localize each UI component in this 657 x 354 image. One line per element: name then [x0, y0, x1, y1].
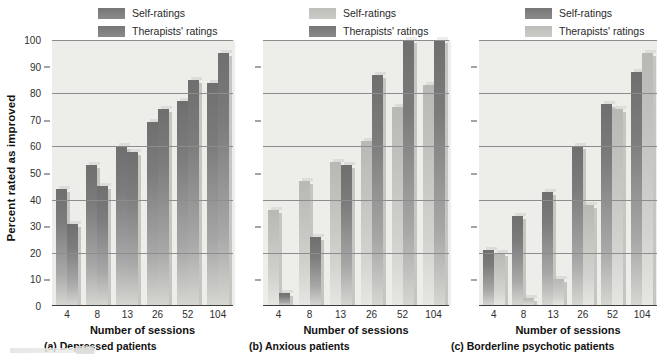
bar-top-shadow — [302, 178, 313, 181]
bar — [361, 141, 372, 306]
bar — [423, 85, 434, 306]
y-tick-label: 70 — [457, 114, 477, 125]
y-tick-mark — [44, 120, 50, 121]
plot-wrap-b: 1009080706050403020100 — [233, 40, 449, 306]
bar-side-shadow — [594, 208, 597, 306]
gridline — [263, 93, 449, 94]
y-tick-mark — [471, 67, 477, 68]
bar-group — [512, 40, 534, 306]
x-tick-label: 104 — [628, 309, 656, 320]
bar — [392, 107, 403, 307]
legend-swatch-dark — [98, 8, 125, 19]
x-tick-label: 8 — [296, 309, 324, 320]
bar-top-shadow — [615, 106, 626, 109]
y-tick-label: 10 — [30, 274, 50, 285]
bar-face — [361, 141, 372, 306]
bar — [631, 72, 642, 306]
plot-wrap-c: 1009080706050403020100 — [449, 40, 657, 306]
y-tick-label: 20 — [241, 247, 261, 258]
x-tick-label: 8 — [83, 309, 111, 320]
legend-item: Self-ratings — [98, 6, 185, 20]
legend-label: Self-ratings — [343, 8, 396, 19]
y-tick-value: 70 — [30, 114, 41, 125]
gridline — [479, 253, 657, 254]
bar — [483, 250, 494, 306]
legend-item: Self-ratings — [525, 6, 612, 20]
bar-group — [299, 40, 321, 306]
y-tick-mark — [44, 173, 50, 174]
legend-item: Therapists' ratings — [98, 24, 217, 38]
bar-top-shadow — [221, 50, 232, 53]
bar-group — [483, 40, 505, 306]
y-axis-label-column: Percent rated as improved — [0, 0, 22, 354]
y-axis-ticks-b: 1009080706050403020100 — [233, 40, 263, 306]
legend-panel-a: Self-ratingsTherapists' ratings — [22, 0, 233, 40]
figure-root: Percent rated as improved Self-ratingsTh… — [0, 0, 657, 354]
y-tick-label: 50 — [457, 168, 477, 179]
legend-label: Self-ratings — [559, 8, 612, 19]
y-tick-label: 0 — [35, 301, 50, 312]
bar-face — [97, 186, 108, 306]
x-axis-c: 48132652104 — [449, 306, 657, 323]
bar-top-shadow — [191, 77, 202, 80]
y-tick-label: 0 — [246, 301, 261, 312]
y-tick-mark — [255, 280, 261, 281]
y-tick-value: 20 — [30, 247, 41, 258]
bar-face — [483, 250, 494, 306]
x-tick-label: 52 — [174, 309, 202, 320]
bar-group — [268, 40, 290, 306]
y-tick-label: 30 — [241, 221, 261, 232]
legend-swatch-dark — [98, 26, 125, 37]
gridline — [263, 40, 449, 41]
x-axis-title-b: Number of sessions — [233, 323, 449, 338]
bar-side-shadow — [383, 78, 386, 306]
y-tick-label: 30 — [457, 221, 477, 232]
y-tick-value: 60 — [30, 141, 41, 152]
bar-top-shadow — [645, 50, 656, 53]
y-tick-mark — [471, 173, 477, 174]
legend-label: Therapists' ratings — [559, 26, 644, 37]
y-tick-label: 100 — [235, 35, 261, 46]
bar-face — [372, 75, 383, 306]
bar-face — [434, 40, 445, 306]
y-tick-mark — [255, 120, 261, 121]
bar-face — [56, 189, 67, 306]
panel-caption-c: (c) Borderline psychotic patients — [449, 338, 657, 354]
panel-c: Self-ratingsTherapists' ratings 10090807… — [449, 0, 657, 354]
bar-top-shadow — [161, 106, 172, 109]
y-tick-mark — [471, 280, 477, 281]
bar — [97, 186, 108, 306]
plot-area-c — [479, 40, 657, 306]
y-tick-mark — [471, 120, 477, 121]
bar-group-container-a — [52, 40, 233, 306]
gridline — [52, 40, 233, 41]
x-tick-label: 26 — [144, 309, 172, 320]
x-tick-label: 26 — [569, 309, 597, 320]
bar-face — [403, 40, 414, 306]
bar-group-container-c — [479, 40, 657, 306]
x-axis-b: 48132652104 — [233, 306, 449, 323]
gridline — [479, 200, 657, 201]
bar — [341, 165, 352, 306]
bar-group — [177, 40, 199, 306]
bar-face — [310, 237, 321, 306]
bar-group — [116, 40, 138, 306]
y-tick-label: 20 — [30, 247, 50, 258]
y-tick-label: 90 — [457, 61, 477, 72]
page-edge-artifact-block — [76, 346, 94, 354]
x-axis-a: 48132652104 — [22, 306, 233, 323]
bar-top-shadow — [515, 213, 526, 216]
y-tick-value: 80 — [30, 88, 41, 99]
bar — [86, 165, 97, 306]
legend-swatch-dark — [525, 8, 552, 19]
bar-group — [56, 40, 78, 306]
bar-face — [67, 224, 78, 306]
bar-top-shadow — [344, 162, 355, 165]
x-axis-title-c: Number of sessions — [449, 323, 657, 338]
bar-top-shadow — [89, 162, 100, 165]
bar-side-shadow — [623, 112, 626, 306]
legend-label: Therapists' ratings — [132, 26, 217, 37]
y-tick-label: 50 — [30, 168, 50, 179]
gridline — [52, 93, 233, 94]
x-tick-label: 104 — [420, 309, 448, 320]
